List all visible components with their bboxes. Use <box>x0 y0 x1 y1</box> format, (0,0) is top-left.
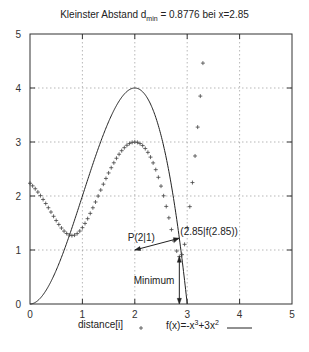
tick-label-y: 3 <box>15 137 21 148</box>
data-point-plus <box>162 194 166 198</box>
data-point-plus <box>156 175 160 179</box>
data-point-plus <box>86 217 90 221</box>
data-point-plus <box>112 161 116 165</box>
label-minimum: Minimum <box>134 275 175 286</box>
data-point-plus <box>188 205 192 209</box>
data-point-plus <box>120 149 124 153</box>
tick-label-x: 5 <box>289 309 295 320</box>
tick-label-y: 4 <box>15 83 21 94</box>
tick-label-x: 4 <box>237 309 243 320</box>
data-point-plus <box>78 229 82 233</box>
data-point-plus <box>94 200 98 204</box>
data-point-plus <box>175 249 179 253</box>
data-point-plus <box>91 206 95 210</box>
data-point-plus <box>101 182 105 186</box>
legend-plus-marker <box>139 326 143 330</box>
arrow-head <box>135 247 141 251</box>
data-point-plus <box>122 146 126 150</box>
legend-item-distance: distance[i] <box>78 319 123 330</box>
data-point-plus <box>183 242 187 246</box>
data-point-plus <box>198 94 202 98</box>
plot-area: P(2|1)(2.85|f(2.85))Minimum 012345012345 <box>0 0 309 352</box>
data-point-plus <box>169 228 173 232</box>
data-point-plus <box>44 202 48 206</box>
legend-item-function: f(x)=-x3+3x2 <box>166 319 219 331</box>
arrow-head <box>177 257 181 263</box>
tick-label-x: 0 <box>27 309 33 320</box>
data-point-plus <box>59 226 63 230</box>
tick-label-y: 0 <box>15 299 21 310</box>
data-point-plus <box>143 147 147 151</box>
arrow-head <box>173 238 179 242</box>
data-point-plus <box>88 211 92 215</box>
data-point-plus <box>38 194 42 198</box>
data-point-plus <box>36 190 40 194</box>
data-point-plus <box>104 176 108 180</box>
legend-label-distance: distance[i] <box>78 319 123 330</box>
data-point-plus <box>154 168 158 172</box>
data-point-plus <box>114 156 118 160</box>
legend-label-function-b: +3x <box>199 320 215 331</box>
data-point-plus <box>107 171 111 175</box>
data-point-plus <box>46 206 50 210</box>
data-point-plus <box>164 204 168 208</box>
tick-label-y: 2 <box>15 191 21 202</box>
data-point-plus <box>70 234 74 238</box>
data-point-plus <box>149 155 153 159</box>
data-point-plus <box>167 216 171 220</box>
data-point-plus <box>159 184 163 188</box>
data-point-plus <box>117 152 121 156</box>
label-point-p: P(2|1) <box>128 232 155 243</box>
data-point-plus <box>96 194 100 198</box>
data-point-plus <box>141 144 145 148</box>
data-point-plus <box>83 221 87 225</box>
data-point-plus <box>201 61 205 65</box>
data-point-plus <box>190 181 194 185</box>
tick-label-x: 2 <box>132 309 138 320</box>
grid-lines <box>30 34 292 304</box>
plot-frame <box>30 34 292 304</box>
data-point-plus <box>57 222 61 226</box>
tick-label-y: 1 <box>15 245 21 256</box>
tick-label-y: 5 <box>15 29 21 40</box>
data-point-plus <box>54 219 58 223</box>
data-point-plus <box>80 226 84 230</box>
data-point-plus <box>62 229 66 233</box>
data-point-plus <box>109 166 113 170</box>
data-point-plus <box>196 125 200 129</box>
data-point-plus <box>49 210 53 214</box>
data-point-plus <box>193 154 197 158</box>
data-point-plus <box>33 187 37 191</box>
data-point-plus <box>99 188 103 192</box>
legend-label-function-a: f(x)=-x <box>166 320 195 331</box>
data-point-plus <box>41 197 45 201</box>
legend-sup-2: 2 <box>215 319 219 326</box>
data-point-plus <box>31 184 35 188</box>
arrow-head <box>177 298 181 304</box>
data-point-plus <box>146 150 150 154</box>
data-point-plus <box>180 253 184 257</box>
data-point-plus <box>151 161 155 165</box>
data-point-plus <box>52 214 56 218</box>
label-point-min: (2.85|f(2.85)) <box>180 226 238 237</box>
